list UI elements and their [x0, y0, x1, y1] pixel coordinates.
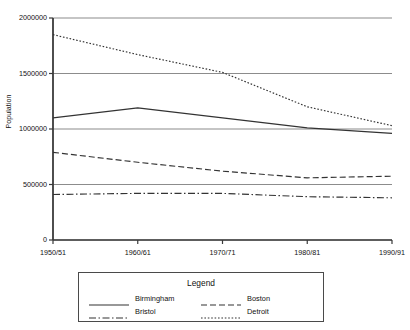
- series-line-birmingham: [53, 108, 392, 134]
- legend-label: Boston: [247, 294, 270, 303]
- legend-label: Bristol: [135, 307, 156, 316]
- legend-entry-bristol: Bristol: [89, 307, 201, 316]
- legend-entry-boston: Boston: [201, 294, 313, 303]
- legend-label: Detroit: [247, 307, 269, 316]
- legend-label: Birmingham: [135, 294, 174, 303]
- chart-legend: Legend BirminghamBostonBristolDetroit: [78, 272, 324, 322]
- legend-swatch-detroit: [201, 308, 241, 316]
- series-line-boston: [53, 152, 392, 178]
- legend-entry-birmingham: Birmingham: [89, 294, 201, 303]
- legend-swatch-boston: [201, 295, 241, 303]
- legend-entry-detroit: Detroit: [201, 307, 313, 316]
- legend-title: Legend: [79, 278, 323, 288]
- legend-swatch-bristol: [89, 308, 129, 316]
- legend-swatch-birmingham: [89, 295, 129, 303]
- legend-entries: BirminghamBostonBristolDetroit: [79, 294, 323, 316]
- series-line-bristol: [53, 193, 392, 197]
